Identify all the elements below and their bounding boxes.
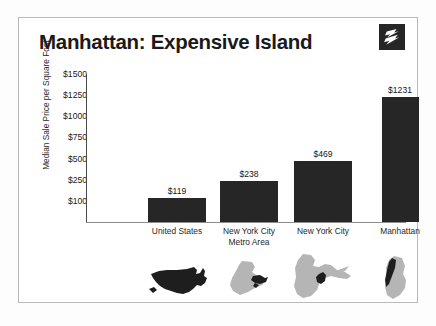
- map-new-york-city-icon: [289, 252, 359, 302]
- y-tick-label: $250: [68, 175, 87, 185]
- screenshot-canvas: Manhattan: Expensive Island Median Sale …: [0, 0, 436, 326]
- y-tick-label: $750: [68, 132, 87, 142]
- bar-value-label: $469: [313, 149, 332, 159]
- x-axis-line: [86, 222, 406, 223]
- y-tick-label: $1500: [63, 69, 87, 79]
- bar-value-label: $238: [239, 169, 258, 179]
- bar: [148, 198, 206, 222]
- x-category-label: United States: [152, 226, 202, 237]
- bars-group: $119$238$469$1231: [86, 74, 406, 222]
- bar-value-label: $119: [168, 186, 186, 196]
- y-tick-label: $500: [68, 154, 87, 164]
- map-manhattan-icon: [378, 254, 422, 302]
- y-tick-label: $1000: [63, 111, 87, 121]
- map-silhouette-row: [86, 246, 406, 300]
- x-category-label: New York City Metro Area: [223, 226, 275, 247]
- bar-value-label: $1231: [388, 85, 412, 95]
- y-axis-ticks: $1500$1250$1000$750$500$250$100: [41, 18, 87, 304]
- chart-card: Manhattan: Expensive Island Median Sale …: [18, 17, 418, 303]
- map-united-states-icon: [147, 262, 211, 302]
- y-tick-label: $1250: [63, 90, 87, 100]
- bar: [294, 161, 352, 222]
- bar: [220, 181, 278, 222]
- x-category-label: Manhattan: [380, 226, 420, 237]
- map-nyc-metro-area-icon: [222, 258, 280, 302]
- bar: [382, 97, 419, 222]
- x-category-label: New York City: [297, 226, 349, 237]
- y-tick-label: $100: [68, 196, 87, 206]
- bar-chart: Median Sale Price per Square Foot $1500$…: [19, 18, 419, 304]
